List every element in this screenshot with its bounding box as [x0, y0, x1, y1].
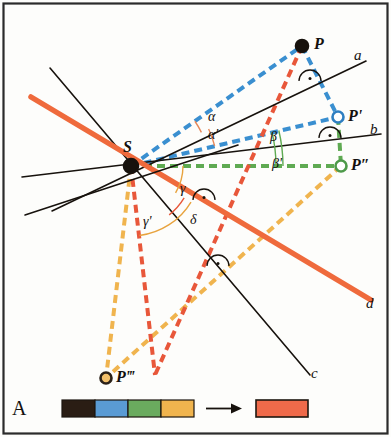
point-Ppp [336, 161, 347, 172]
legend-swatch-blue [95, 400, 128, 417]
right-angle-dot-at-line-a [309, 77, 312, 80]
diagram-canvas [0, 0, 391, 437]
right-angle-dot-at-line-c [217, 262, 220, 265]
geometry-figure-panel: abcdαα'ββ'γγ'δPP'P″SP‴ A [0, 0, 391, 437]
point-S [124, 159, 138, 173]
legend-swatch-green [128, 400, 161, 417]
legend-swatch-red [256, 400, 308, 417]
legend-swatch-orange [161, 400, 194, 417]
figure-frame [4, 4, 388, 434]
right-angle-dot-at-line-d [203, 196, 206, 199]
right-angle-dot-at-line-b [329, 134, 332, 137]
point-Pppp [101, 373, 112, 384]
point-Pp [333, 112, 344, 123]
legend-swatch-black [62, 400, 95, 417]
point-P [296, 40, 308, 52]
